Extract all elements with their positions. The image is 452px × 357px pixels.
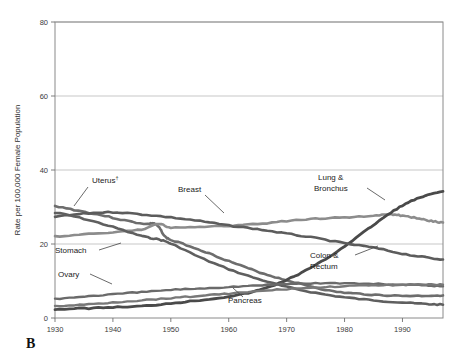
- breast-label: Breast: [178, 185, 202, 194]
- chart-figure: 020406080 1930194019501960197019801990 R…: [0, 0, 452, 357]
- uterus-label: Uterus†: [92, 175, 119, 185]
- uterus-label-superscript: †: [116, 175, 119, 181]
- y-tick-label-60: 60: [40, 92, 48, 101]
- y-tick-label-0: 0: [44, 314, 48, 323]
- chart-background: [0, 0, 452, 357]
- cancer-death-rate-line-chart: 020406080 1930194019501960197019801990 R…: [0, 0, 452, 357]
- y-tick-label-40: 40: [40, 166, 48, 175]
- pancreas-label: Pancreas: [228, 296, 262, 305]
- colon-label-1: Colon &: [310, 251, 339, 260]
- panel-label: B: [26, 336, 35, 351]
- lung-label-1: Lung &: [318, 173, 344, 182]
- y-tick-label-80: 80: [40, 18, 48, 27]
- x-tick-label-1950: 1950: [162, 325, 179, 334]
- x-tick-label-1940: 1940: [105, 325, 122, 334]
- y-axis-title: Rate per 100,000 Female Population: [13, 105, 22, 236]
- x-tick-label-1930: 1930: [47, 325, 64, 334]
- ovary-label: Ovary: [58, 270, 79, 279]
- x-tick-label-1960: 1960: [220, 325, 237, 334]
- stomach-label: Stomach: [55, 246, 87, 255]
- x-tick-label-1990: 1990: [394, 325, 411, 334]
- lung-label-2: Bronchus: [314, 184, 348, 193]
- x-tick-label-1970: 1970: [278, 325, 295, 334]
- colon-label-2: Rectum: [310, 262, 338, 271]
- x-tick-label-1980: 1980: [336, 325, 353, 334]
- y-tick-label-20: 20: [40, 240, 48, 249]
